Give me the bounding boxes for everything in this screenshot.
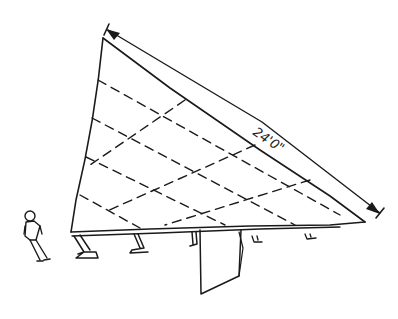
triangular-panel xyxy=(71,38,365,236)
dimension-line: 24'0" xyxy=(104,24,384,218)
vertical-plate xyxy=(200,230,243,294)
panel-grid-lines xyxy=(80,80,340,228)
scale-figure-person xyxy=(24,211,50,261)
arrow-head-top-icon xyxy=(106,29,120,40)
sketch-canvas: 24'0" xyxy=(0,0,398,319)
dimension-label: 24'0" xyxy=(250,124,287,156)
support-legs xyxy=(74,232,316,258)
